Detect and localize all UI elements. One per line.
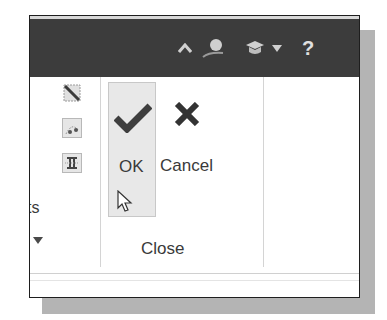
title-bar: ? <box>30 16 359 77</box>
ribbon-panel: ts OK Cancel <box>30 77 359 272</box>
mouse-cursor-icon <box>117 190 133 218</box>
ok-button[interactable]: OK <box>108 82 156 217</box>
bridge-tool-icon[interactable] <box>62 153 82 173</box>
ribbon-bottom-border <box>30 273 359 274</box>
hatch-tool-icon[interactable] <box>62 83 82 103</box>
learning-hat-icon[interactable] <box>244 39 266 57</box>
canvas-top-border <box>30 280 359 281</box>
close-panel-title: Close <box>141 239 184 259</box>
group-divider <box>263 77 264 267</box>
dropdown-arrow-icon[interactable] <box>270 39 284 57</box>
cancel-button[interactable]: Cancel <box>158 82 214 182</box>
group-divider <box>100 77 101 267</box>
ok-label: OK <box>119 157 144 177</box>
collapse-ribbon-icon[interactable] <box>176 39 194 57</box>
application-window: ? ts OK <box>29 15 360 298</box>
expand-group-arrow-icon[interactable] <box>33 229 43 248</box>
cancel-x-icon <box>174 102 200 130</box>
spline-points-tool-icon[interactable] <box>62 118 82 138</box>
help-icon[interactable]: ? <box>298 39 318 57</box>
partial-group-label: ts <box>29 199 39 217</box>
cancel-label: Cancel <box>160 156 213 176</box>
checkmark-icon <box>114 103 152 137</box>
user-account-icon[interactable] <box>201 39 227 57</box>
